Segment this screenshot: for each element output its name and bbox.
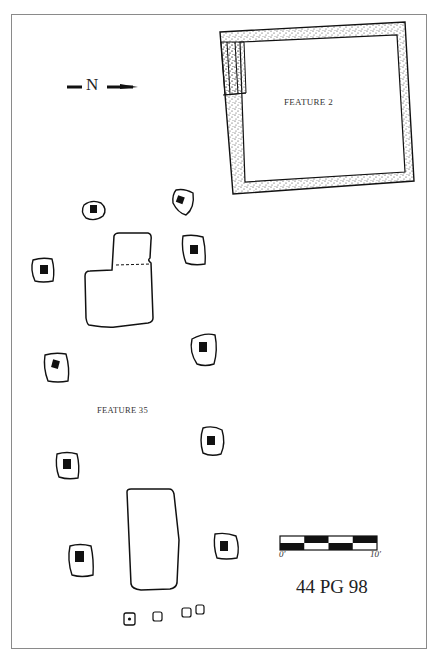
north-arrow-icon [67,84,138,89]
feature-35-l-shaped-pit [85,233,153,327]
scale-start-label: 0′ [279,549,285,559]
small-post-holes [124,605,204,625]
north-label: N [86,75,98,95]
post-hole-5 [44,353,68,382]
site-number: 44 PG 98 [296,576,368,598]
post-hole-2 [173,189,194,215]
feature-35-rect-pit [127,489,179,590]
feature-2-structure [220,22,414,194]
post-hole-10 [69,545,93,577]
post-hole-9 [214,533,238,559]
site-plan-drawing [0,0,441,663]
feature-35-label: FEATURE 35 [97,405,148,415]
post-hole-8 [56,453,78,479]
scale-bar [280,536,377,550]
post-hole-1 [82,201,105,219]
scale-end-label: 10′ [370,549,381,559]
post-hole-6 [191,334,216,365]
feature-2-label: FEATURE 2 [284,97,333,107]
post-hole-4 [32,258,54,282]
post-hole-7 [201,427,224,455]
post-hole-3 [182,235,205,265]
